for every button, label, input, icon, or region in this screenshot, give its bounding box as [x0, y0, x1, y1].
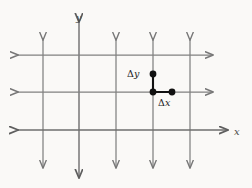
- point-top: [150, 71, 157, 78]
- delta-symbol-y: Δ: [127, 68, 134, 79]
- y-axis-label: y: [76, 13, 82, 23]
- delta-variable-x: x: [165, 97, 170, 108]
- delta-symbol-x: Δ: [158, 97, 165, 108]
- delta-y-label: Δy: [127, 69, 139, 79]
- coordinate-grid-figure: y x Δy Δx: [0, 0, 252, 188]
- point-right: [169, 89, 176, 96]
- delta-x-label: Δx: [158, 98, 170, 108]
- grid-diagram-svg: [0, 0, 252, 188]
- delta-variable-y: y: [134, 68, 139, 79]
- increment-segments: [153, 74, 172, 92]
- x-axis-label: x: [234, 127, 240, 137]
- point-corner: [150, 89, 157, 96]
